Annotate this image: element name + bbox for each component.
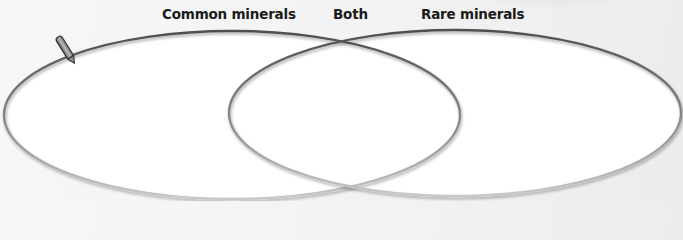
rare-minerals-label: Rare minerals [421,6,524,22]
common-minerals-label: Common minerals [162,6,296,22]
both-label: Both [333,6,368,22]
venn-diagram [0,0,683,201]
